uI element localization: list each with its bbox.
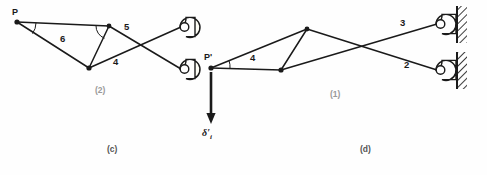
member-T-B [89, 26, 109, 68]
node-label-P: P [12, 8, 18, 17]
member-label-4-d: 4 [250, 53, 255, 63]
diagram-c-members [17, 22, 181, 69]
member-label-5: 5 [124, 22, 129, 32]
wall-support-upper [436, 14, 456, 34]
joint-top-d [305, 27, 310, 32]
wall-support-lower [436, 60, 456, 80]
arrow-head [206, 113, 215, 124]
figure-vector-layer [0, 0, 487, 175]
figure-caption-d: (d) [360, 145, 371, 154]
diagram-d-angle-arcs [229, 61, 230, 69]
diagram-c-supports [180, 17, 200, 79]
eyebar-lower [180, 17, 200, 37]
member-4 [89, 27, 181, 68]
figure-container: P 6 5 4 (2) (c) P' 4 3 2 (1) (d) δ′i [0, 0, 487, 175]
joint-top [107, 24, 112, 29]
angle-arc-T [96, 25, 105, 38]
angle-arc-Pp [229, 61, 230, 69]
joint-bot-d [278, 67, 283, 72]
node-label-P-prime: P' [204, 53, 212, 62]
panel-caption-2: (2) [95, 86, 105, 95]
joint-bot [86, 65, 91, 70]
angle-arc-P [33, 23, 37, 34]
eyebar-upper [180, 59, 200, 79]
wall-hatch-lower [457, 52, 467, 89]
displacement-arrow [206, 72, 215, 124]
member-Pp-T [211, 29, 307, 68]
joint-Pp [208, 65, 213, 70]
member-P-B [17, 22, 89, 68]
figure-caption-c: (c) [107, 145, 117, 154]
member-Pp-B [211, 68, 281, 70]
delta-subscript: i [210, 133, 212, 141]
displacement-label: δ′i [202, 128, 212, 141]
panel-caption-1: (1) [330, 90, 340, 99]
member-P-T [17, 22, 109, 26]
diagram-c-joints [14, 19, 111, 70]
member-label-4: 4 [113, 57, 118, 67]
wall-hatch-upper [457, 6, 467, 43]
member-label-3: 3 [400, 18, 405, 28]
diagram-d-supports [436, 6, 467, 89]
member-label-2: 2 [404, 60, 409, 70]
joint-P [14, 19, 19, 24]
member-label-6: 6 [60, 34, 65, 44]
member-2 [307, 29, 437, 70]
